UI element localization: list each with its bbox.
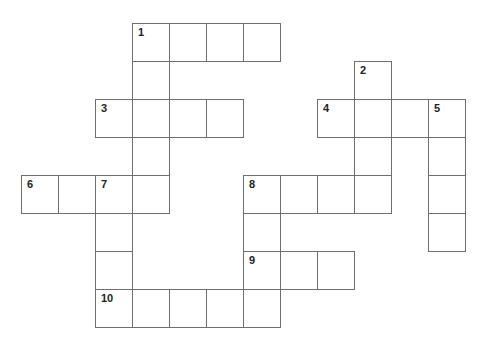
crossword-cell[interactable]: 9	[243, 251, 281, 290]
crossword-cell[interactable]: 7	[95, 175, 133, 214]
clue-number: 2	[360, 65, 366, 76]
crossword-cell[interactable]: 8	[243, 175, 281, 214]
crossword-cell[interactable]	[132, 175, 170, 214]
clue-number: 4	[323, 103, 329, 114]
crossword-cell[interactable]	[206, 289, 244, 328]
clue-number: 1	[138, 27, 144, 38]
crossword-cell[interactable]	[206, 99, 244, 138]
crossword-cell[interactable]	[132, 99, 170, 138]
clue-number: 9	[249, 255, 255, 266]
crossword-cell[interactable]: 3	[95, 99, 133, 138]
crossword-cell[interactable]	[317, 251, 355, 290]
crossword-cell[interactable]	[169, 23, 207, 62]
clue-number: 7	[101, 179, 107, 190]
clue-number: 10	[101, 293, 113, 304]
crossword-cell[interactable]	[354, 175, 392, 214]
clue-number: 6	[27, 179, 33, 190]
crossword-grid: 12345678910	[0, 0, 478, 344]
crossword-cell[interactable]: 4	[317, 99, 355, 138]
crossword-cell[interactable]	[95, 251, 133, 290]
clue-number: 8	[249, 179, 255, 190]
crossword-cell[interactable]	[428, 175, 466, 214]
crossword-cell[interactable]	[428, 137, 466, 176]
crossword-cell[interactable]: 2	[354, 61, 392, 100]
crossword-cell[interactable]	[243, 213, 281, 252]
crossword-cell[interactable]	[169, 99, 207, 138]
crossword-cell[interactable]	[428, 213, 466, 252]
crossword-cell[interactable]	[354, 99, 392, 138]
crossword-cell[interactable]	[243, 23, 281, 62]
crossword-cell[interactable]	[243, 289, 281, 328]
clue-number: 3	[101, 103, 107, 114]
crossword-cell[interactable]: 10	[95, 289, 133, 328]
crossword-cell[interactable]	[58, 175, 96, 214]
crossword-cell[interactable]	[354, 137, 392, 176]
crossword-cell[interactable]	[391, 99, 429, 138]
crossword-cell[interactable]	[280, 251, 318, 290]
crossword-cell[interactable]	[280, 175, 318, 214]
crossword-cell[interactable]	[206, 23, 244, 62]
crossword-cell[interactable]	[169, 289, 207, 328]
crossword-cell[interactable]: 6	[21, 175, 59, 214]
crossword-cell[interactable]: 5	[428, 99, 466, 138]
crossword-cell[interactable]: 1	[132, 23, 170, 62]
crossword-cell[interactable]	[317, 175, 355, 214]
crossword-cell[interactable]	[132, 289, 170, 328]
crossword-cell[interactable]	[132, 61, 170, 100]
clue-number: 5	[434, 103, 440, 114]
crossword-cell[interactable]	[95, 213, 133, 252]
crossword-cell[interactable]	[132, 137, 170, 176]
